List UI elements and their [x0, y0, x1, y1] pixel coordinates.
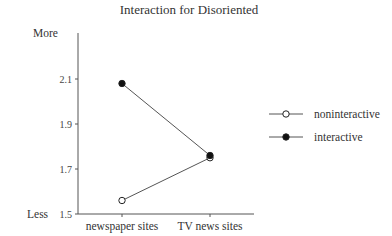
interaction-chart: Interaction for Disoriented More Less 1.… — [0, 0, 392, 236]
y-tick-label: 1.7 — [60, 164, 73, 175]
legend-filled-circle-icon — [283, 134, 289, 140]
legend-label: interactive — [314, 131, 363, 143]
series-line-noninteractive — [122, 158, 210, 201]
filled-circle-marker — [207, 152, 213, 158]
series-lines — [119, 80, 213, 203]
y-tick-label: 1.9 — [60, 119, 73, 130]
legend: noninteractiveinteractive — [269, 108, 380, 143]
open-circle-marker — [119, 197, 125, 203]
y-tick-label: 1.5 — [60, 209, 73, 220]
legend-open-circle-icon — [283, 111, 289, 117]
y-bottom-label: Less — [27, 208, 49, 220]
x-category-label: newspaper sites — [86, 220, 159, 233]
chart-title: Interaction for Disoriented — [120, 2, 259, 17]
filled-circle-marker — [119, 80, 125, 86]
legend-label: noninteractive — [314, 108, 380, 120]
y-top-label: More — [33, 27, 58, 39]
x-category-label: TV news sites — [178, 220, 243, 232]
series-line-interactive — [122, 84, 210, 156]
y-tick-label: 2.1 — [60, 74, 73, 85]
y-axis: 1.51.71.92.12.5 — [60, 0, 79, 220]
x-axis: newspaper sitesTV news sites — [78, 214, 254, 233]
